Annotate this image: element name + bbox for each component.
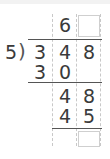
subtraction-bar: [52, 128, 102, 129]
dividend-digit-3: 8: [77, 42, 101, 62]
grid-line: [100, 14, 101, 146]
division-bar: [28, 39, 102, 40]
step-digit: 3: [28, 62, 52, 82]
top-edge: [0, 0, 110, 4]
remainder-input-box[interactable]: [78, 131, 100, 147]
quotient-digit-1: 6: [53, 15, 77, 35]
quotient-input-box[interactable]: [78, 15, 100, 37]
step-digit: 4: [53, 86, 77, 106]
step-digit: 8: [77, 86, 101, 106]
step-digit: 5: [77, 106, 101, 126]
dividend-digit-2: 4: [53, 42, 77, 62]
divisor: 5: [5, 42, 17, 62]
subtraction-bar: [28, 82, 102, 83]
division-bracket: ): [18, 41, 26, 61]
step-digit: 4: [53, 106, 77, 126]
step-digit: 0: [53, 62, 77, 82]
dividend-digit-1: 3: [28, 42, 52, 62]
